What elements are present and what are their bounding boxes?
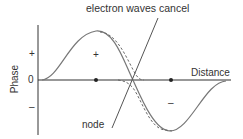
peak-dot — [94, 78, 98, 82]
pointer-line — [112, 18, 158, 128]
y-tick-plus: + — [29, 49, 35, 59]
y-axis-label: Phase — [10, 63, 20, 95]
y-tick-zero: 0 — [28, 75, 34, 85]
node-label: node — [82, 120, 104, 130]
x-axis-label: Distance — [191, 68, 230, 78]
y-tick-minus: – — [29, 102, 35, 112]
negative-region-sign: – — [168, 98, 174, 108]
positive-region-sign: + — [93, 50, 99, 60]
solid-wave — [42, 31, 226, 131]
trough-dot — [169, 78, 173, 82]
title-label: electron waves cancel — [86, 3, 189, 14]
